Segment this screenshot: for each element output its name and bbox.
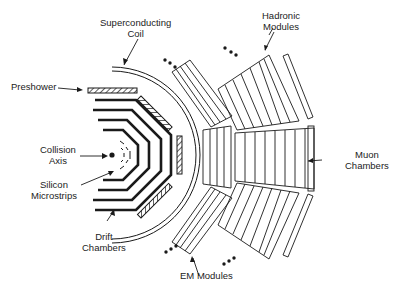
- label-line: Preshower: [11, 81, 56, 92]
- label-line: EM Modules: [180, 270, 233, 281]
- label-line: Microstrips: [31, 190, 77, 201]
- label-line: Coil: [100, 28, 171, 39]
- label-hadronic-modules: Hadronic Modules: [262, 10, 300, 32]
- label-line: Superconducting: [100, 17, 171, 28]
- label-line: Axis: [40, 155, 76, 166]
- label-line: Chambers: [82, 242, 126, 253]
- silicon-microstrips: [120, 141, 130, 169]
- muon-chambers: [283, 54, 314, 257]
- label-line: Collision: [40, 144, 76, 155]
- label-line: Modules: [262, 21, 300, 32]
- detector-diagram: [0, 0, 396, 284]
- label-line: Drift: [82, 231, 126, 242]
- label-preshower: Preshower: [11, 81, 56, 92]
- label-superconducting-coil: Superconducting Coil: [100, 17, 171, 39]
- continuation-dots: [163, 46, 237, 265]
- label-muon-chambers: Muon Chambers: [345, 149, 389, 171]
- label-line: Hadronic: [262, 10, 300, 21]
- label-collision-axis: Collision Axis: [40, 144, 76, 166]
- label-line: Chambers: [345, 160, 389, 171]
- label-line: Silicon: [31, 179, 77, 190]
- label-silicon-microstrips: Silicon Microstrips: [31, 179, 77, 201]
- label-em-modules: EM Modules: [180, 270, 233, 281]
- label-line: Muon: [345, 149, 389, 160]
- collision-axis-point: [109, 152, 114, 157]
- label-drift-chambers: Drift Chambers: [82, 231, 126, 253]
